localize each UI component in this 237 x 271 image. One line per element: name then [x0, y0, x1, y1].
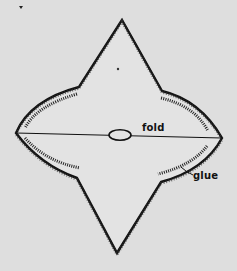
diagram-canvas: fold glue — [0, 0, 237, 271]
corner-mark — [19, 6, 23, 9]
fold-ellipse — [109, 130, 131, 140]
glue-label: glue — [193, 171, 218, 181]
star-pattern-diagram — [0, 0, 237, 271]
center-dot — [117, 68, 119, 70]
fold-label: fold — [142, 123, 165, 133]
